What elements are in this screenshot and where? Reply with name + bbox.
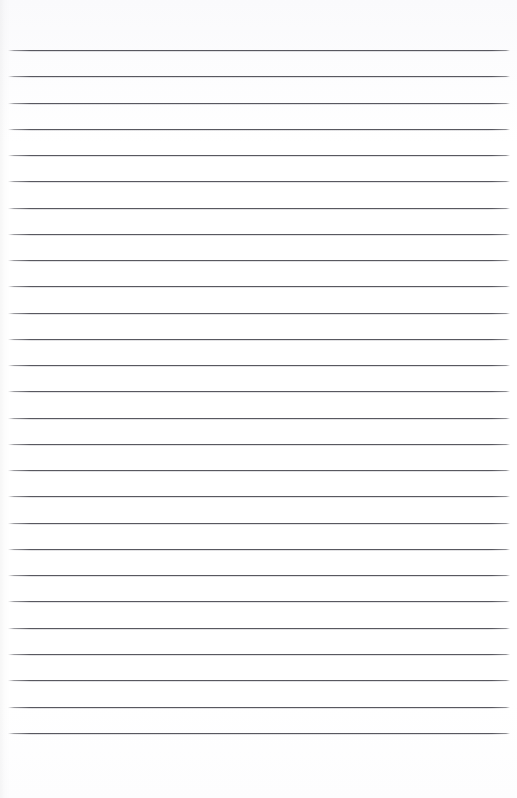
- rule-line: [8, 129, 510, 130]
- rule-line: [8, 391, 510, 392]
- rule-line: [8, 549, 510, 550]
- scanned-lined-paper-page: [0, 0, 517, 798]
- rule-line: [8, 601, 510, 602]
- rule-line: [8, 707, 510, 708]
- rule-line: [8, 575, 510, 576]
- rule-line: [8, 234, 510, 235]
- rule-line: [8, 654, 510, 655]
- rule-line: [8, 208, 510, 209]
- rule-line: [8, 470, 510, 471]
- rule-line: [8, 496, 510, 497]
- rule-line: [8, 286, 510, 287]
- rule-line: [8, 313, 510, 314]
- rule-line: [8, 50, 510, 51]
- rule-line: [8, 628, 510, 629]
- rule-line: [8, 155, 510, 156]
- rule-line: [8, 680, 510, 681]
- rule-line: [8, 365, 510, 366]
- rule-line: [8, 103, 510, 104]
- rule-line: [8, 444, 510, 445]
- rule-line: [8, 181, 510, 182]
- rule-line: [8, 76, 510, 77]
- ruled-lines-layer: [0, 0, 517, 798]
- rule-line: [8, 523, 510, 524]
- rule-line: [8, 418, 510, 419]
- rule-line: [8, 260, 510, 261]
- rule-line: [8, 733, 510, 734]
- rule-line: [8, 339, 510, 340]
